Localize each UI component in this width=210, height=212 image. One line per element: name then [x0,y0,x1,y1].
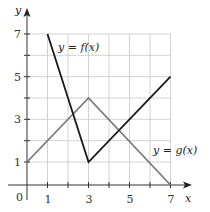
y-tick-5: 5 [14,71,21,84]
x-tick-1: 1 [45,193,52,206]
y-tick-1: 1 [14,156,21,169]
f-label: y = f(x) [57,41,99,54]
x-axis-label: x [185,192,192,205]
y-tick-7: 7 [14,28,21,41]
g-label: y = g(x) [152,144,197,157]
x-tick-7: 7 [168,193,175,206]
y-axis-label: y [14,4,22,17]
ticks [24,34,171,188]
chart: 1 3 5 7 0 1 3 5 7 x y y = f(x) y = g(x) [0,0,210,212]
x-tick-3: 3 [86,193,93,206]
series-g [27,98,171,185]
origin-label: 0 [16,191,23,204]
x-tick-5: 5 [127,193,134,206]
y-tick-3: 3 [14,113,21,126]
